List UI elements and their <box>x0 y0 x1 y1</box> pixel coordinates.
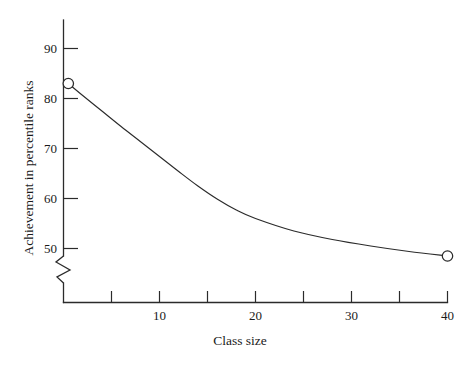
y-axis-break-icon <box>56 256 70 283</box>
x-tick-label-30: 30 <box>345 308 358 323</box>
y-axis-title: Achievement in percentile ranks <box>21 80 36 255</box>
achievement-curve <box>68 84 447 257</box>
x-tick-label-20: 20 <box>249 308 262 323</box>
x-tick-label-40: 40 <box>441 308 454 323</box>
y-tick-labels: 90 80 70 60 50 <box>44 41 57 256</box>
x-tick-label-10: 10 <box>153 308 166 323</box>
y-tick-label-90: 90 <box>44 41 57 56</box>
y-tick-label-80: 80 <box>44 91 57 106</box>
data-point-marker-end <box>442 251 452 261</box>
x-axis-title: Class size <box>213 333 267 348</box>
line-chart-plot: 90 80 70 60 50 10 20 30 40 Class size Ac… <box>0 0 476 365</box>
x-tick-labels: 10 20 30 40 <box>153 308 454 323</box>
y-tick-label-70: 70 <box>44 141 57 156</box>
y-tick-label-60: 60 <box>44 191 57 206</box>
y-tick-label-50: 50 <box>44 241 57 256</box>
data-point-marker-start <box>63 78 73 88</box>
chart-figure: 90 80 70 60 50 10 20 30 40 Class size Ac… <box>0 0 476 365</box>
x-tick-marks <box>112 291 448 303</box>
